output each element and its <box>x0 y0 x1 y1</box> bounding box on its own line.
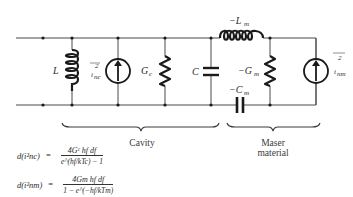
svg-text:m: m <box>244 20 249 28</box>
label-cm: −C m <box>229 84 249 97</box>
brace-label-maser: Maser material <box>248 138 298 158</box>
formula-nc-denominator: e^(hf/kTc) − 1 <box>61 156 103 166</box>
formula-nc-lhs: d(i²nc) <box>17 151 40 161</box>
capacitor-c-icon <box>203 68 219 75</box>
label-i-nm: 2 i nm <box>333 53 346 78</box>
label-i-nc: 2 i nc <box>90 62 102 81</box>
formula-nc-numerator: 4Gᶜ hf df <box>61 146 103 156</box>
label-l: L <box>52 65 59 76</box>
svg-text:2: 2 <box>95 62 99 70</box>
formula-nm-numerator: 4Gm hf df <box>63 175 113 185</box>
svg-text:−L: −L <box>229 15 242 26</box>
brace-label-maser-line1: Maser <box>261 138 285 148</box>
svg-text:i: i <box>91 71 93 79</box>
brace-maser <box>227 123 320 131</box>
label-c: C <box>192 66 199 77</box>
formula-nm: d(i²nm) = 4Gm hf df 1 − e^(−hf/kTm) <box>17 175 113 195</box>
capacitor-cm-icon <box>237 97 243 113</box>
formula-nc: d(i²nc) = 4Gᶜ hf df e^(hf/kTc) − 1 <box>17 146 103 166</box>
svg-text:m: m <box>254 70 259 78</box>
formula-nm-lhs: d(i²nm) <box>17 180 42 190</box>
svg-text:nm: nm <box>337 70 346 78</box>
brace-label-maser-line2: material <box>257 148 288 158</box>
inductor-lm-icon <box>220 31 263 40</box>
current-source-cavity-icon <box>106 59 130 83</box>
svg-text:G: G <box>141 65 148 76</box>
brace-cavity <box>62 123 219 131</box>
svg-text:nc: nc <box>94 73 102 81</box>
label-gm: −G m <box>238 65 259 78</box>
label-gc: G c <box>141 65 153 78</box>
formula-nm-denominator: 1 − e^(−hf/kTm) <box>63 185 113 195</box>
svg-text:−G: −G <box>238 65 252 76</box>
label-lm: −L m <box>229 15 249 28</box>
svg-text:2: 2 <box>338 54 342 62</box>
svg-text:m: m <box>244 89 249 97</box>
svg-text:c: c <box>149 70 153 78</box>
svg-text:−C: −C <box>229 84 243 95</box>
inductor-l-icon <box>66 50 78 91</box>
svg-text:i: i <box>334 68 336 76</box>
current-source-maser-icon <box>304 59 328 83</box>
circuit-diagram: L 2 i nc G c C −L m −G m −C m 2 i nm <box>0 0 353 197</box>
resistor-gm-icon <box>265 56 275 86</box>
resistor-gc-icon <box>160 56 170 86</box>
brace-label-cavity: Cavity <box>117 138 167 148</box>
